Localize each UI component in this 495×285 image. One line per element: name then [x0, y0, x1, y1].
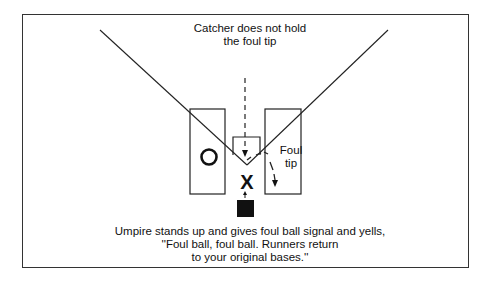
foul-tip-label-line-2: tip — [276, 157, 306, 170]
foul-tip-arrowhead-icon — [272, 180, 278, 187]
foul-tip-path-2 — [274, 174, 275, 180]
deflection-path-dashed — [247, 157, 251, 160]
bottom-caption-line-2: ''Foul ball, foul ball. Runners return — [60, 238, 440, 251]
batter-symbol: X — [240, 171, 254, 193]
umpire-symbol-icon — [237, 200, 254, 217]
catcher-symbol-icon — [202, 150, 217, 165]
top-caption-line-1: Catcher does not hold — [150, 22, 350, 35]
bottom-caption: Umpire stands up and gives foul ball sig… — [60, 225, 440, 264]
top-caption-line-2: the foul tip — [150, 35, 350, 48]
foul-tip-label: Foul tip — [276, 144, 306, 170]
foul-tip-label-line-1: Foul — [276, 144, 306, 157]
pitch-arrowhead-icon — [242, 150, 248, 157]
right-foul-line — [247, 30, 388, 165]
bottom-caption-line-1: Umpire stands up and gives foul ball sig… — [60, 225, 440, 238]
left-batter-box — [190, 109, 225, 194]
foul-tip-path — [270, 162, 273, 170]
bottom-caption-line-3: to your original bases.'' — [60, 251, 440, 264]
top-caption: Catcher does not hold the foul tip — [150, 22, 350, 48]
